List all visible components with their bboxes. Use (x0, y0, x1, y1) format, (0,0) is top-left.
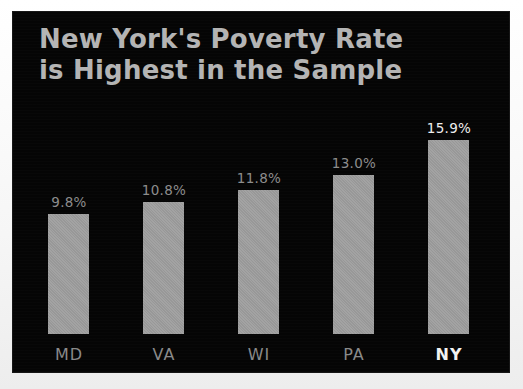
bar-group: 10.8%VA (124, 12, 204, 372)
bar-value-label: 10.8% (124, 182, 204, 198)
bar-category-label: PA (314, 345, 394, 364)
bar[interactable] (48, 214, 89, 334)
bar-category-label: VA (124, 345, 204, 364)
bar-value-label: 11.8% (219, 170, 299, 186)
bar-group: 13.0%PA (314, 12, 394, 372)
bar-group: 15.9%NY (409, 12, 489, 372)
bar[interactable] (428, 140, 469, 334)
chart-panel: New York's Poverty Rate is Highest in th… (13, 12, 509, 372)
bar-category-label: MD (29, 345, 109, 364)
bar-category-label: WI (219, 345, 299, 364)
bar-category-label: NY (409, 345, 489, 364)
bar-group: 9.8%MD (29, 12, 109, 372)
bar-value-label: 13.0% (314, 155, 394, 171)
bar-group: 11.8%WI (219, 12, 299, 372)
bar-value-label: 9.8% (29, 194, 109, 210)
bar[interactable] (333, 175, 374, 334)
bar[interactable] (143, 202, 184, 334)
bar[interactable] (238, 190, 279, 334)
plot-area: 9.8%MD10.8%VA11.8%WI13.0%PA15.9%NY (13, 12, 509, 372)
chart-screenshot: New York's Poverty Rate is Highest in th… (0, 0, 523, 389)
bar-value-label: 15.9% (409, 120, 489, 136)
